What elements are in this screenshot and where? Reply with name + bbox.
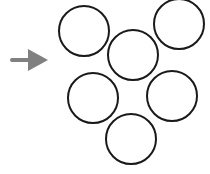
arrow-right-icon — [12, 49, 48, 71]
circle-4 — [68, 73, 118, 123]
circle-1 — [59, 6, 109, 56]
circle-6 — [106, 114, 156, 164]
diagram-canvas — [0, 0, 210, 174]
circle-2 — [154, 0, 204, 49]
circle-3 — [108, 30, 158, 80]
arrow-head — [28, 49, 48, 71]
circle-5 — [147, 71, 197, 121]
circle-cluster — [59, 0, 204, 164]
